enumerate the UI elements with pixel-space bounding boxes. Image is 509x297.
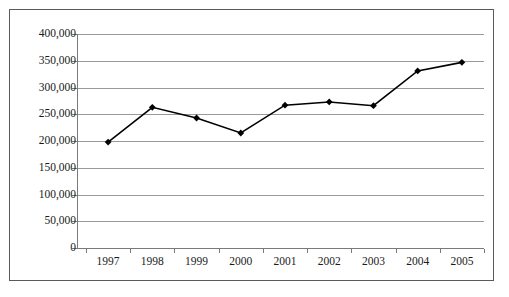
chart-frame: 050,000100,000150,000200,000250,000300,0… <box>9 9 494 281</box>
plot-area: 050,000100,000150,000200,000250,000300,0… <box>10 10 495 282</box>
data-point-marker <box>326 99 333 106</box>
data-point-marker <box>458 59 465 66</box>
data-point-marker <box>193 115 200 122</box>
data-series-line <box>10 10 495 282</box>
